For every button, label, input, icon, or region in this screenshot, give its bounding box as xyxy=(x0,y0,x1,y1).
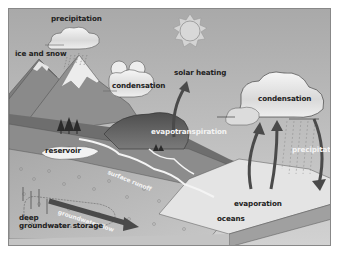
label-oceans: oceans xyxy=(217,215,245,222)
label-groundwater-storage: groundwater storage xyxy=(19,222,103,229)
label-condensation-right: condensation xyxy=(258,95,311,102)
label-ice-and-snow: ice and snow xyxy=(15,50,67,57)
water-cycle-diagram: precipitation ice and snow condensation … xyxy=(8,8,331,246)
label-precipitation-top: precipitation xyxy=(51,15,102,22)
label-precipitation-right: precipitation xyxy=(292,146,331,153)
label-condensation-left: condensation xyxy=(112,82,165,89)
label-reservoir: reservoir xyxy=(45,147,81,154)
label-evaporation: evaporation xyxy=(234,200,282,207)
label-evapotranspiration: evapotranspiration xyxy=(151,128,227,135)
caption-placeholder xyxy=(8,250,158,256)
label-solar-heating: solar heating xyxy=(174,69,226,76)
